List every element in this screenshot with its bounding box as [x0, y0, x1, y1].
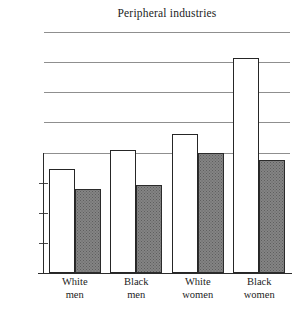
y-axis-line [43, 153, 44, 274]
plot-area: 010%20%30%40%50%60%70%80% [44, 32, 290, 273]
bar-black-men-shaded [136, 185, 162, 273]
bar-chart: Peripheral industries 010%20%30%40%50%60… [0, 0, 297, 316]
x-category-label-line2: women [219, 289, 297, 302]
bar-white-women-open [172, 134, 198, 273]
bar-white-men-open [49, 169, 75, 273]
gridline-80 [44, 32, 290, 33]
x-axis-line [38, 273, 292, 274]
x-category-label-4: Blackwomen [219, 276, 297, 301]
bar-white-women-shaded [198, 153, 224, 274]
bar-black-women-open [233, 58, 259, 273]
x-category-label-line1: Black [219, 276, 297, 289]
bar-black-women-shaded [259, 160, 285, 273]
chart-title: Peripheral industries [44, 7, 290, 19]
bar-white-men-shaded [75, 189, 101, 273]
bar-black-men-open [110, 150, 136, 273]
